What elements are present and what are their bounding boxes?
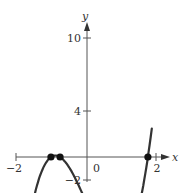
x-axis-label: x (172, 151, 179, 164)
y-tick-label-4: 4 (74, 105, 81, 118)
y-axis-arrow-icon (84, 22, 90, 31)
root-point (144, 153, 151, 160)
origin-label: 0 (93, 162, 100, 175)
y-axis-label: y (81, 10, 89, 23)
x-tick-label-neg2: −2 (6, 162, 22, 175)
x-axis-arrow-icon (161, 154, 170, 160)
function-graph: y x 10 4 −2 −2 2 0 (0, 0, 185, 193)
x-tick-label-2: 2 (154, 162, 161, 175)
root-point (47, 153, 54, 160)
y-tick-label-10: 10 (67, 32, 81, 45)
root-point (56, 153, 63, 160)
